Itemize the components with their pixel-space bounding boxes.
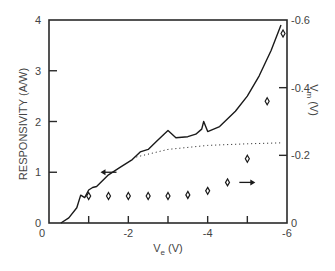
vm-diamond-marker xyxy=(226,179,230,186)
annotations xyxy=(101,169,256,185)
y2-axis-title-unit: (V) xyxy=(308,101,320,116)
y-tick-label: 4 xyxy=(35,14,41,26)
vm-diamond-marker xyxy=(126,192,130,199)
x-tick-label: -6 xyxy=(282,227,292,239)
vm-diamond-marker xyxy=(146,192,150,199)
y-axis-title: RESPONSIVITY (A/W) xyxy=(17,68,29,180)
y2-tick-label: 0 xyxy=(291,217,297,229)
x-tick-label: -2 xyxy=(123,227,133,239)
responsivity-curve xyxy=(61,25,281,223)
responsivity-extrapolation-line xyxy=(136,143,283,157)
x-tick-label: 0 xyxy=(39,227,45,239)
y2-axis-title-sub: m xyxy=(305,92,314,99)
x-axis-title-unit: (V) xyxy=(168,242,183,254)
data-series xyxy=(61,25,285,223)
vm-diamond-marker xyxy=(281,30,285,37)
y2-tick-label: -0.6 xyxy=(291,14,310,26)
x-tick-label: -4 xyxy=(203,227,213,239)
vm-diamond-marker xyxy=(245,155,249,162)
vm-diamond-marker xyxy=(166,192,170,199)
vm-diamond-marker xyxy=(206,187,210,194)
x-axis-title-sub: e xyxy=(161,248,166,257)
y-tick-label: 2 xyxy=(35,116,41,128)
vm-diamond-marker xyxy=(186,191,190,198)
y-tick-label: 1 xyxy=(35,166,41,178)
tick-labels: 012340-0.2-0.4-0.60-2-4-6 xyxy=(35,14,310,239)
vm-diamond-marker xyxy=(265,98,269,105)
arrow-left-head-icon xyxy=(101,169,106,175)
arrow-right-head-icon xyxy=(250,179,255,185)
vm-diamond-marker xyxy=(107,192,111,199)
y-tick-label: 3 xyxy=(35,65,41,77)
y2-tick-label: -0.2 xyxy=(291,149,310,161)
chart: 012340-0.2-0.4-0.60-2-4-6 RESPONSIVITY (… xyxy=(0,0,335,271)
x-axis-title: Ve(V) xyxy=(153,242,182,257)
